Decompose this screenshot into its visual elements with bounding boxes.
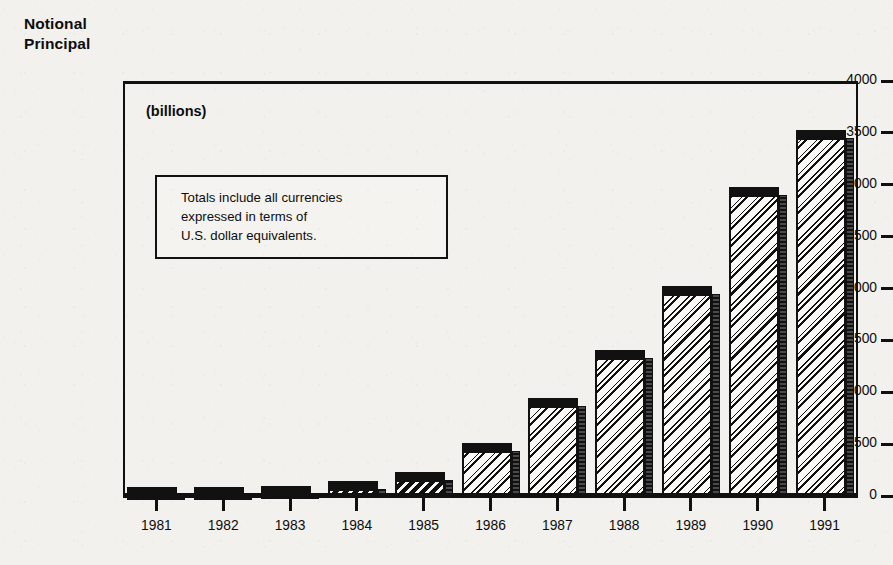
bar-side-face <box>645 358 653 496</box>
bar-front-face <box>528 406 578 496</box>
bar-top-face <box>729 187 779 195</box>
bar-top-face <box>595 350 645 358</box>
bar-top-face <box>796 130 846 138</box>
bar-side-face <box>712 294 720 496</box>
units-caption: (billions) <box>146 103 206 119</box>
bar-front-face <box>595 358 645 496</box>
bar-front-face <box>796 138 846 496</box>
bar-side-face <box>578 406 586 496</box>
bar-side-face <box>846 138 854 496</box>
bar-1988 <box>595 350 653 496</box>
bar-1986 <box>462 443 520 496</box>
bar-top-face <box>528 398 578 406</box>
bar-series <box>0 0 893 565</box>
bar-front-face <box>729 195 779 496</box>
bar-1991 <box>796 130 854 496</box>
bar-side-face <box>512 451 520 496</box>
x-axis-baseline <box>123 493 858 498</box>
bar-top-face <box>462 443 512 451</box>
bar-1987 <box>528 398 586 496</box>
bar-top-face <box>395 472 445 480</box>
bar-top-face <box>328 481 378 489</box>
bar-front-face <box>662 294 712 496</box>
bar-1990 <box>729 187 787 496</box>
bar-side-face <box>779 195 787 496</box>
bar-front-face <box>462 451 512 496</box>
bar-1989 <box>662 286 720 496</box>
bar-top-face <box>662 286 712 294</box>
note-box: Totals include all currencies expressed … <box>155 175 448 259</box>
